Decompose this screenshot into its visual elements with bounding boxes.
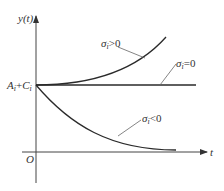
label-growth: σi>0 — [101, 37, 121, 51]
leader-growth — [118, 47, 145, 58]
x-axis-label: t — [210, 146, 214, 158]
response-diagram: y(t) t O Ai+Ci σi>0 σi=0 σi<0 — [0, 0, 224, 191]
intercept-label: Ai+Ci — [6, 79, 32, 93]
label-decay: σi<0 — [142, 112, 162, 126]
origin-label: O — [26, 153, 34, 165]
leader-decay — [118, 120, 141, 136]
label-constant: σi=0 — [176, 57, 196, 71]
leader-constant — [160, 64, 176, 85]
diagram-canvas: y(t) t O Ai+Ci σi>0 σi=0 σi<0 — [0, 0, 224, 191]
y-axis-label: y(t) — [17, 12, 34, 25]
